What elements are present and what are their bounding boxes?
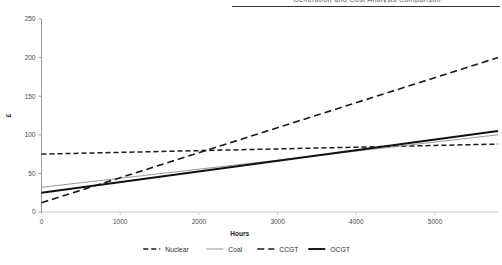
y-axis-title: £: [5, 113, 12, 117]
legend-label: CCGT: [279, 246, 298, 253]
line-chart-svg: 050100150200250010002000300040005000Hour…: [0, 0, 502, 265]
series-layer: [42, 58, 499, 203]
legend-label: Coal: [228, 246, 242, 253]
series-line-nuclear: [42, 144, 499, 154]
legend-label: OCGT: [330, 246, 350, 253]
x-tick-label: 4000: [349, 218, 364, 225]
chart-figure: Generation and Cost Analysis Comparison …: [0, 0, 502, 265]
series-line-ccgt: [42, 58, 499, 203]
y-tick-label: 250: [25, 15, 36, 22]
y-tick-label: 150: [25, 93, 36, 100]
series-line-ocgt: [42, 131, 499, 193]
y-tick-label: 0: [32, 208, 36, 215]
x-tick-label: 0: [40, 218, 44, 225]
legend-item-coal[interactable]: Coal: [206, 246, 242, 253]
x-tick-label: 2000: [192, 218, 207, 225]
chart-legend: NuclearCoalCCGTOCGT: [143, 246, 350, 253]
x-tick-label: 3000: [270, 218, 285, 225]
y-tick-label: 100: [25, 131, 36, 138]
legend-item-ccgt[interactable]: CCGT: [257, 246, 298, 253]
y-tick-label: 50: [28, 170, 36, 177]
legend-label: Nuclear: [165, 246, 189, 253]
legend-item-ocgt[interactable]: OCGT: [308, 246, 350, 253]
legend-item-nuclear[interactable]: Nuclear: [143, 246, 189, 253]
x-tick-label: 5000: [428, 218, 443, 225]
x-axis-title: Hours: [230, 230, 249, 237]
y-tick-label: 200: [25, 54, 36, 61]
x-tick-label: 1000: [113, 218, 128, 225]
